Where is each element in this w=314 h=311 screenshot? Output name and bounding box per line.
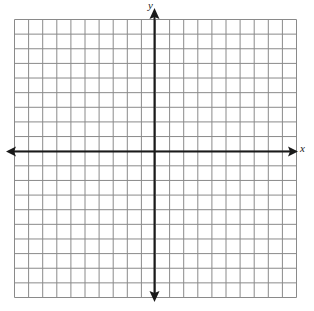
y-axis [150, 8, 160, 302]
x-axis-label: x [300, 143, 305, 154]
y-axis-label: y [148, 0, 153, 11]
coordinate-grid [0, 0, 314, 311]
